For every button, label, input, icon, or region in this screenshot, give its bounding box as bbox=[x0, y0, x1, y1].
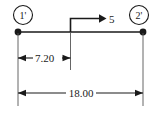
beam-dimension-diagram: 1' 2' 5 7.20 18.00 bbox=[0, 0, 158, 117]
dim-arrowhead-partial-left bbox=[18, 55, 26, 61]
dim-arrowhead-total-left bbox=[18, 90, 26, 96]
node-label-right: 2' bbox=[136, 10, 143, 21]
diagram-canvas: 1' 2' 5 7.20 18.00 bbox=[0, 0, 158, 117]
load-arrow-head bbox=[99, 14, 107, 23]
dim-arrowhead-partial-right bbox=[63, 55, 71, 61]
load-magnitude-label: 5 bbox=[109, 13, 115, 25]
dim-label-partial-span: 7.20 bbox=[35, 52, 55, 64]
dim-arrowhead-total-right bbox=[135, 90, 143, 96]
dim-label-total-span: 18.00 bbox=[69, 87, 94, 99]
load-arrow-shaft bbox=[71, 19, 100, 33]
node-label-left: 1' bbox=[20, 10, 27, 21]
